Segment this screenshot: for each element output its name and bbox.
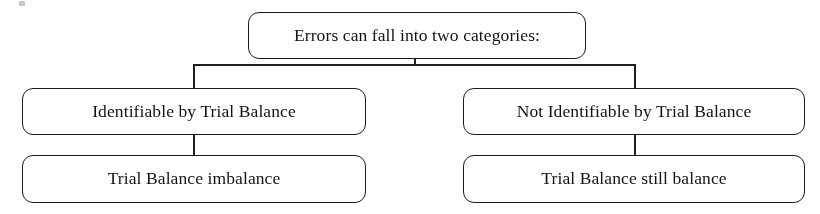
node-trial-balance-still-balance: Trial Balance still balance	[463, 155, 805, 203]
connector-drop-right	[634, 64, 636, 89]
node-root: Errors can fall into two categories:	[248, 12, 586, 59]
node-still-balance-label: Trial Balance still balance	[541, 169, 726, 188]
connector-drop-left	[193, 64, 195, 89]
node-trial-balance-imbalance: Trial Balance imbalance	[22, 155, 366, 203]
flowchart-canvas: Errors can fall into two categories: Ide…	[0, 0, 820, 214]
node-not-identifiable-by-trial-balance: Not Identifiable by Trial Balance	[463, 88, 805, 135]
node-root-label: Errors can fall into two categories:	[294, 26, 540, 45]
node-imbalance-label: Trial Balance imbalance	[108, 169, 281, 188]
connector-left-column	[193, 134, 195, 156]
scan-artifact	[19, 1, 25, 6]
node-identifiable-by-trial-balance: Identifiable by Trial Balance	[22, 88, 366, 135]
node-not-identifiable-label: Not Identifiable by Trial Balance	[517, 102, 752, 121]
connector-split-bar	[193, 64, 635, 66]
connector-right-column	[634, 134, 636, 156]
node-identifiable-label: Identifiable by Trial Balance	[92, 102, 296, 121]
